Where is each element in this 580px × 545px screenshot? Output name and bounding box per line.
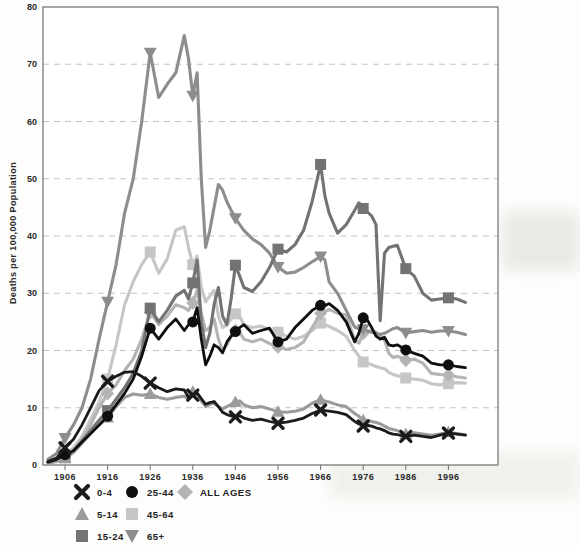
series-marker-25-44-1926 — [145, 323, 156, 334]
legend-label: 0-4 — [97, 487, 112, 498]
legend-item-45-64: 45-64 — [124, 506, 174, 522]
series-marker-15-24-1976 — [358, 203, 369, 214]
y-tick-label-80: 80 — [27, 2, 37, 12]
x-glyph — [76, 486, 88, 498]
y-tick-label-50: 50 — [27, 174, 37, 184]
legend-label: 5-14 — [97, 509, 118, 520]
triangle-up-marker-icon — [74, 506, 90, 522]
circle-glyph — [126, 486, 138, 498]
series-marker-45-64-1976 — [358, 356, 369, 367]
chart-canvas: 1906191619261936194619561966197619861996… — [0, 0, 580, 545]
legend-column-2: 25-4445-6465+ — [124, 484, 174, 544]
x-tick-label-1996: 1996 — [437, 472, 459, 482]
legend-item-0-4: 0-4 — [74, 484, 124, 500]
x-tick-label-1966: 1966 — [310, 472, 332, 482]
legend-label: 25-44 — [147, 487, 174, 498]
legend-column-1: 0-45-1415-24 — [74, 484, 124, 544]
square-marker-icon — [74, 528, 90, 544]
legend-label: ALL AGES — [200, 487, 252, 498]
series-marker-25-44-1996 — [443, 359, 454, 370]
y-tick-label-0: 0 — [32, 460, 37, 470]
series-marker-15-24-1936 — [187, 277, 198, 288]
legend-item-5-14: 5-14 — [74, 506, 124, 522]
y-tick-label-30: 30 — [27, 288, 37, 298]
series-marker-25-44-1936 — [187, 316, 198, 327]
series-marker-15-24-1926 — [145, 303, 156, 314]
square-marker-icon — [124, 506, 140, 522]
series-marker-25-44-1946 — [230, 326, 241, 337]
series-marker-15-24-1946 — [230, 260, 241, 271]
x-tick-label-1946: 1946 — [224, 472, 246, 482]
y-axis-title: Deaths per 100,000 Population — [8, 123, 18, 343]
series-marker-15-24-1956 — [273, 244, 284, 255]
series-marker-45-64-1926 — [145, 247, 156, 258]
legend-item-25-44: 25-44 — [124, 484, 174, 500]
series-marker-15-24-1996 — [443, 292, 454, 303]
triangle-down-marker-icon — [124, 528, 140, 544]
series-marker-15-24-1986 — [400, 263, 411, 274]
y-tick-label-10: 10 — [27, 403, 37, 413]
series-marker-15-24-1966 — [315, 159, 326, 170]
series-marker-25-44-1966 — [315, 300, 326, 311]
diamond-marker-icon — [177, 484, 193, 500]
legend-column-3: ALL AGES — [177, 484, 252, 500]
legend-item-ALL AGES: ALL AGES — [177, 484, 252, 500]
y-tick-label-40: 40 — [27, 231, 37, 241]
series-marker-45-64-1986 — [400, 372, 411, 383]
x-tick-label-1976: 1976 — [352, 472, 374, 482]
legend-label: 65+ — [147, 531, 165, 542]
square-glyph — [126, 508, 138, 520]
diamond-glyph — [177, 484, 193, 500]
legend-item-15-24: 15-24 — [74, 528, 124, 544]
series-marker-25-44-1916 — [102, 411, 113, 422]
square-glyph — [76, 530, 88, 542]
triangle-up-glyph — [75, 507, 89, 520]
legend-label: 45-64 — [147, 509, 174, 520]
series-marker-45-64-1946 — [230, 308, 241, 319]
y-tick-label-20: 20 — [27, 346, 37, 356]
series-marker-25-44-1986 — [400, 344, 411, 355]
x-tick-label-1926: 1926 — [139, 472, 161, 482]
x-tick-label-1936: 1936 — [182, 472, 204, 482]
legend-label: 15-24 — [97, 531, 124, 542]
triangle-down-glyph — [125, 530, 139, 543]
figure: 1906191619261936194619561966197619861996… — [0, 0, 580, 545]
series-marker-25-44-1976 — [358, 312, 369, 323]
series-marker-25-44-1956 — [273, 336, 284, 347]
x-tick-label-1956: 1956 — [267, 472, 289, 482]
legend-item-65+: 65+ — [124, 528, 174, 544]
x-tick-label-1906: 1906 — [54, 472, 76, 482]
y-tick-label-60: 60 — [27, 117, 37, 127]
x-marker-icon — [74, 484, 90, 500]
x-tick-label-1916: 1916 — [97, 472, 119, 482]
circle-marker-icon — [124, 484, 140, 500]
x-tick-label-1986: 1986 — [395, 472, 417, 482]
y-tick-label-70: 70 — [27, 59, 37, 69]
